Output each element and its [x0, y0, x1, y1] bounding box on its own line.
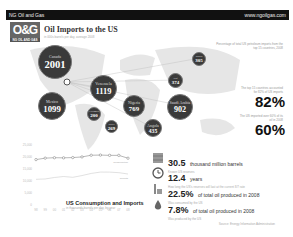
svg-text:00: 00 — [53, 208, 57, 212]
page-subtitle: in 000s barrels per day, average 2008 — [44, 35, 94, 39]
og-logo: O&GNG OIL AND GAS — [10, 22, 40, 42]
chart-subtitle: in thousands barrels per day, by year — [66, 206, 115, 210]
svg-text:0: 0 — [30, 203, 32, 207]
svg-text:Consumption: Consumption — [113, 161, 128, 164]
page-title: Oil Imports to the US — [44, 25, 118, 34]
barrels-icon — [152, 152, 164, 164]
refinery-icon — [152, 183, 164, 195]
bubble-angola: Angola435 — [144, 119, 162, 137]
svg-text:25,000: 25,000 — [23, 143, 33, 147]
svg-text:15,000: 15,000 — [23, 167, 33, 171]
top-bar: NG Oil and Gas www.ngoilgas.com — [6, 10, 289, 20]
svg-text:20,000: 20,000 — [23, 155, 33, 159]
svg-text:08: 08 — [126, 208, 130, 212]
svg-text:Imports: Imports — [120, 177, 129, 180]
bubble-russia: Russia305 — [192, 52, 206, 66]
bubble-saudi-arabia: Saudi Arabia902 — [167, 94, 193, 120]
svg-text:10,000: 10,000 — [23, 179, 33, 183]
map-note: Percentage of total US petroleum imports… — [213, 42, 283, 50]
brand-label: NG Oil and Gas — [9, 10, 44, 20]
clock-icon — [152, 167, 164, 179]
stat-60-value: 60% — [255, 121, 285, 138]
bubble-iraq: Iraq374 — [168, 73, 183, 88]
stat-82-value: 82% — [255, 93, 285, 110]
svg-text:98: 98 — [34, 208, 38, 212]
bubble-venezuela: Venezuela1119 — [90, 75, 117, 102]
site-url[interactable]: www.ngoilgas.com — [245, 10, 286, 20]
svg-text:5,000: 5,000 — [24, 191, 32, 195]
source-note: Source: Energy Information Administratio… — [219, 222, 275, 226]
bubble-mexico: Mexico1099 — [38, 92, 66, 120]
drop-icon — [152, 199, 164, 211]
bubble-canada: Canada2001 — [38, 45, 72, 79]
bubble-colombia: Colombia200 — [87, 107, 101, 121]
bubble-brazil: Brazil269 — [105, 120, 118, 133]
svg-text:07: 07 — [117, 208, 121, 212]
bubble-nigeria: Nigeria769 — [123, 95, 145, 117]
stat-produced: 7.8% of total oil produced in 2008Was pr… — [152, 199, 254, 221]
svg-text:99: 99 — [44, 208, 48, 212]
